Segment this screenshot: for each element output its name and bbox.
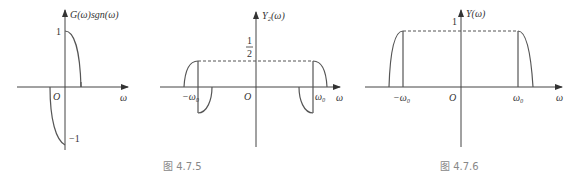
y-axis-label: G(ω)sgn(ω): [70, 9, 119, 21]
x-axis-label: ω: [556, 92, 563, 103]
left-rising-curve: [184, 61, 198, 87]
diagram-canvas: G(ω)sgn(ω) 1 O ω −1 Y₂(ω) 1 2 −ω₀ O ω₀ ω…: [0, 0, 572, 182]
positive-lobe-curve: [65, 31, 81, 87]
origin-label: O: [449, 92, 456, 103]
left-negative-lobe: [198, 87, 212, 113]
figure-caption: 图 4.7.6: [440, 161, 479, 172]
tick-label-1: 1: [452, 16, 457, 27]
tick-label-neg1: −1: [69, 133, 80, 144]
y-axis-label: Y₂(ω): [262, 10, 285, 22]
right-falling-curve: [518, 31, 533, 87]
right-negative-lobe: [299, 87, 313, 113]
plot-y: Y(ω) 1 −ω₀ O ω₀ ω 图 4.7.6: [365, 8, 563, 172]
x-axis-label: ω: [336, 92, 343, 103]
tick-label-1: 1: [56, 26, 61, 37]
left-rising-curve: [389, 31, 403, 87]
neg-omega0-label: −ω₀: [182, 91, 200, 102]
plot-y2: Y₂(ω) 1 2 −ω₀ O ω₀ ω 图 4.7.5: [160, 10, 343, 172]
origin-label: O: [53, 91, 60, 102]
pos-omega0-label: ω₀: [513, 92, 524, 103]
origin-label: O: [244, 91, 251, 102]
half-numerator: 1: [247, 35, 252, 46]
pos-omega0-label: ω₀: [315, 91, 326, 102]
y-axis-label: Y(ω): [466, 8, 486, 20]
figure-caption: 图 4.7.5: [163, 161, 202, 172]
half-denominator: 2: [247, 48, 252, 59]
right-falling-curve: [313, 61, 327, 87]
x-axis-label: ω: [120, 92, 127, 103]
neg-omega0-label: −ω₀: [393, 92, 411, 103]
plot-gsgn: G(ω)sgn(ω) 1 O ω −1: [17, 9, 128, 150]
